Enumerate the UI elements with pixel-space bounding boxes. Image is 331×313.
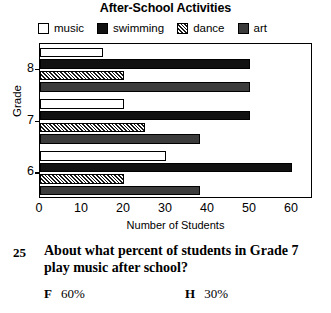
legend-label-art: art xyxy=(254,22,267,34)
chart-bars-layer xyxy=(40,44,311,197)
legend-swatch-music-icon xyxy=(38,23,49,34)
answer-value-h: 30% xyxy=(204,286,228,302)
bar-dance-grade-6 xyxy=(40,174,124,184)
legend-label-dance: dance xyxy=(193,22,224,34)
x-tick-label-0: 0 xyxy=(24,201,54,215)
answer-options: F 60% H 30% xyxy=(44,286,324,306)
bar-dance-grade-7 xyxy=(40,123,145,133)
legend-swatch-art-icon xyxy=(238,23,249,34)
chart-legend: music swimming dance art xyxy=(38,20,318,36)
legend-swatch-dance-icon xyxy=(177,23,188,34)
chart-title: After-School Activities xyxy=(0,1,331,15)
y-tick-label-8: 8 xyxy=(18,61,34,75)
legend-label-swimming: swimming xyxy=(113,22,164,34)
legend-item-art: art xyxy=(238,22,267,34)
answer-letter-h: H xyxy=(185,286,195,302)
x-tick-label-60: 60 xyxy=(276,201,306,215)
answer-option-f[interactable]: F 60% xyxy=(44,286,85,302)
x-tick-label-20: 20 xyxy=(108,201,138,215)
answer-letter-f: F xyxy=(44,286,52,302)
question-text: About what percent of students in Grade … xyxy=(44,243,324,276)
chart-plot-area xyxy=(39,43,312,198)
legend-label-music: music xyxy=(54,22,84,34)
y-tick-label-6: 6 xyxy=(18,164,34,178)
legend-swatch-swimming-icon xyxy=(97,23,108,34)
x-tick-label-30: 30 xyxy=(150,201,180,215)
x-tick-label-40: 40 xyxy=(192,201,222,215)
x-tick-label-50: 50 xyxy=(234,201,264,215)
x-axis-title: Number of Students xyxy=(39,219,312,231)
bar-swimming-grade-8 xyxy=(40,59,250,69)
bar-swimming-grade-6 xyxy=(40,163,292,173)
legend-item-dance: dance xyxy=(177,22,224,34)
answer-option-h[interactable]: H 30% xyxy=(185,286,228,302)
x-tick-label-10: 10 xyxy=(66,201,96,215)
legend-item-music: music xyxy=(38,22,84,34)
bar-art-grade-8 xyxy=(40,82,250,92)
bar-music-grade-8 xyxy=(40,48,103,58)
bar-dance-grade-8 xyxy=(40,71,124,81)
bar-art-grade-6 xyxy=(40,186,200,196)
question-number: 25 xyxy=(13,245,26,261)
bar-art-grade-7 xyxy=(40,134,200,144)
bar-music-grade-7 xyxy=(40,99,124,109)
bar-swimming-grade-7 xyxy=(40,111,250,121)
y-tick-label-7: 7 xyxy=(18,113,34,127)
bar-music-grade-6 xyxy=(40,151,166,161)
answer-value-f: 60% xyxy=(61,286,85,302)
legend-item-swimming: swimming xyxy=(97,22,164,34)
